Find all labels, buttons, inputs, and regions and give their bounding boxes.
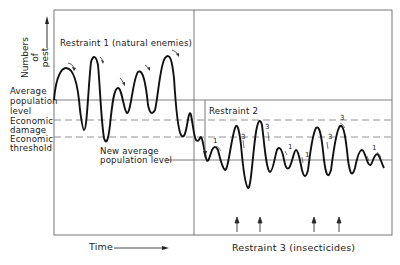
y-axis-label-line1: Numbers of bbox=[20, 35, 40, 80]
y-axis-label-line2: pest bbox=[40, 35, 50, 80]
time-label: Time bbox=[89, 242, 113, 252]
restraint-2-label: Restraint 2 bbox=[209, 106, 258, 116]
marker-3: 3 bbox=[241, 132, 246, 142]
time-arrow-icon bbox=[162, 246, 169, 250]
marker-1: 1 bbox=[213, 136, 218, 146]
label-average: Average bbox=[10, 86, 47, 96]
restraint-1-label: Restraint 1 (natural enemies) bbox=[60, 38, 192, 48]
population-curve bbox=[54, 56, 384, 188]
y-axis-label: Numbers of pest bbox=[20, 40, 60, 80]
marker-3: 3 bbox=[265, 122, 270, 132]
label-economic-threshold-2: threshold bbox=[10, 143, 52, 153]
marker-3: 3 bbox=[328, 132, 333, 142]
label-new-population-level: population level bbox=[100, 155, 172, 165]
marker-1: 1 bbox=[305, 150, 310, 160]
marker-3: 3 bbox=[340, 113, 345, 123]
marker-1: 1 bbox=[372, 143, 377, 153]
marker-1: 1 bbox=[288, 142, 293, 152]
label-population: population bbox=[10, 96, 58, 106]
y-axis-arrow-icon bbox=[45, 16, 49, 24]
label-level: level bbox=[10, 106, 31, 116]
restraint-3-label: Restraint 3 (insecticides) bbox=[232, 243, 355, 253]
insecticide-arrows bbox=[235, 217, 341, 232]
